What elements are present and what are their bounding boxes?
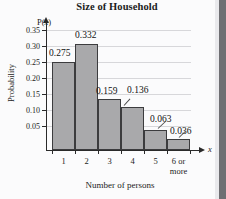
x-tick: [52, 150, 53, 154]
data-label-2: 0.332: [75, 30, 96, 40]
x-axis-line: [46, 150, 200, 151]
x-axis-arrow-icon: [199, 147, 205, 153]
data-label-3: 0.159: [96, 86, 117, 96]
y-axis-arrow-icon: [43, 17, 49, 23]
bar-4: [121, 107, 144, 151]
y-tick-label: 0.20: [26, 74, 40, 83]
x-axis-symbol: x: [208, 144, 212, 154]
y-tick-label: 0.30: [26, 42, 40, 51]
y-tick-label: 0.25: [26, 58, 40, 67]
bar-5: [144, 130, 167, 150]
y-tick-label: 0.10: [26, 106, 40, 115]
gridline: [46, 30, 191, 31]
x-axis-title: Number of persons: [45, 180, 195, 190]
bar-6: [167, 139, 190, 151]
y-tick-label: 0.15: [26, 90, 40, 99]
histogram-figure: Size of Household P(x) Probability 0.35 …: [0, 0, 226, 199]
bar-1: [52, 62, 75, 150]
y-tick-label: 0.05: [26, 122, 40, 131]
x-tick: [144, 150, 145, 154]
x-tick: [121, 150, 122, 154]
x-tick: [98, 150, 99, 154]
x-tick: [190, 150, 191, 154]
data-label-5: 0.063: [150, 114, 171, 124]
data-label-1: 0.275: [49, 48, 70, 58]
leader-line-4: [124, 98, 131, 105]
y-axis-title: Probability: [6, 48, 16, 118]
plot-area: 0.35 0.30 0.25 0.20 0.15 0.10 0.05 x: [46, 30, 191, 150]
x-tick-label-6: 6 or more: [164, 156, 194, 176]
bar-3: [98, 99, 121, 150]
x-tick: [167, 150, 168, 154]
data-label-4: 0.136: [127, 85, 148, 95]
y-tick-label: 0.35: [26, 26, 40, 35]
x-tick: [75, 150, 76, 154]
x-tick-label-6-line1: 6 or: [172, 156, 185, 166]
chart-title: Size of Household: [36, 1, 198, 12]
y-axis-line: [46, 22, 47, 150]
page-edge-shadow: [219, 0, 226, 199]
x-tick-label-6-line2: more: [170, 166, 187, 176]
